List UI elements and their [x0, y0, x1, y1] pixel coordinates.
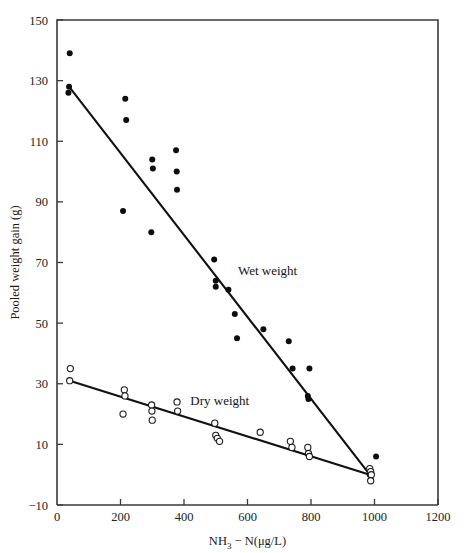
x-tick-label: 1000: [362, 510, 387, 524]
data-point-dry-weight: [174, 399, 180, 405]
data-point-dry-weight: [306, 453, 312, 459]
data-point-wet-weight: [373, 454, 379, 460]
data-point-dry-weight: [149, 408, 155, 414]
y-tick-label: 30: [36, 377, 49, 391]
regression-line-wet-weight: [69, 87, 370, 475]
y-tick-label: 150: [29, 14, 48, 28]
data-point-wet-weight: [174, 187, 180, 193]
data-point-wet-weight: [290, 366, 296, 372]
data-point-wet-weight: [232, 311, 238, 317]
data-point-wet-weight: [305, 396, 311, 402]
data-point-wet-weight: [234, 335, 240, 341]
x-tick-label: 400: [175, 510, 194, 524]
data-point-dry-weight: [149, 402, 155, 408]
data-point-dry-weight: [149, 417, 155, 423]
y-tick-label: 130: [29, 74, 48, 88]
y-tick-label: 90: [36, 195, 49, 209]
data-point-dry-weight: [257, 429, 263, 435]
y-tick-label: −10: [28, 499, 48, 513]
data-point-dry-weight: [175, 408, 181, 414]
y-tick-label: 70: [36, 256, 49, 270]
x-tick-label: 1200: [426, 510, 451, 524]
data-point-dry-weight: [216, 438, 222, 444]
scatter-plot: −101030507090110130150020040060080010001…: [0, 0, 464, 553]
dry-weight-label: Dry weight: [190, 393, 249, 408]
data-point-dry-weight: [122, 393, 128, 399]
data-point-wet-weight: [122, 96, 128, 102]
data-point-dry-weight: [289, 444, 295, 450]
y-axis-title: Pooled weight gain (g): [8, 205, 22, 319]
x-tick-label: 600: [238, 510, 257, 524]
data-point-dry-weight: [120, 411, 126, 417]
data-point-dry-weight: [67, 365, 73, 371]
wet-weight-label: Wet weight: [238, 263, 298, 278]
y-tick-label: 10: [36, 438, 49, 452]
data-point-dry-weight: [368, 472, 374, 478]
data-point-dry-weight: [368, 478, 374, 484]
data-point-wet-weight: [213, 278, 219, 284]
y-tick-label: 110: [30, 135, 48, 149]
data-point-wet-weight: [260, 326, 266, 332]
data-point-wet-weight: [174, 169, 180, 175]
data-point-wet-weight: [286, 338, 292, 344]
data-point-wet-weight: [66, 84, 72, 90]
data-point-dry-weight: [212, 420, 218, 426]
data-point-wet-weight: [65, 90, 71, 96]
data-point-wet-weight: [306, 366, 312, 372]
data-point-wet-weight: [148, 229, 154, 235]
data-point-wet-weight: [149, 156, 155, 162]
data-point-wet-weight: [211, 256, 217, 262]
data-point-dry-weight: [121, 387, 127, 393]
x-axis-title: NH3 − N(μg/L): [209, 534, 286, 551]
data-point-wet-weight: [120, 208, 126, 214]
x-tick-label: 800: [302, 510, 321, 524]
y-tick-label: 50: [36, 317, 49, 331]
x-tick-label: 200: [111, 510, 130, 524]
data-point-wet-weight: [67, 50, 73, 56]
data-point-wet-weight: [150, 166, 156, 172]
figure-container: −101030507090110130150020040060080010001…: [0, 0, 464, 553]
data-point-wet-weight: [173, 147, 179, 153]
data-point-dry-weight: [305, 444, 311, 450]
data-point-dry-weight: [67, 378, 73, 384]
data-point-dry-weight: [287, 438, 293, 444]
data-point-wet-weight: [123, 117, 129, 123]
data-point-wet-weight: [213, 284, 219, 290]
x-tick-label: 0: [54, 510, 60, 524]
data-point-wet-weight: [225, 287, 231, 293]
